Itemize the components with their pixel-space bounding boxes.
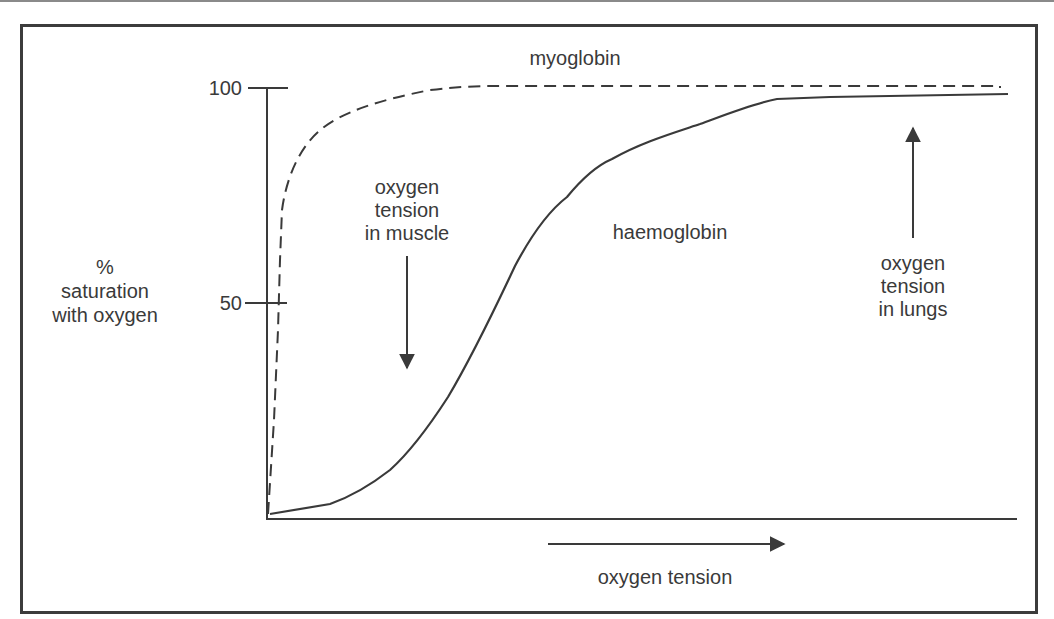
lungs-label-line-1: oxygen bbox=[853, 252, 973, 275]
myoglobin-label: myoglobin bbox=[515, 47, 635, 70]
y-tick-label-50: 50 bbox=[190, 292, 242, 314]
x-axis-label: oxygen tension bbox=[565, 566, 765, 589]
y-axis-label-line-1: % bbox=[45, 256, 165, 279]
lungs-label-line-3: in lungs bbox=[853, 298, 973, 321]
lungs-label-line-2: tension bbox=[853, 275, 973, 298]
muscle-label-line-2: tension bbox=[347, 199, 467, 222]
muscle-label-line-3: in muscle bbox=[347, 222, 467, 245]
muscle-label-line-1: oxygen bbox=[347, 176, 467, 199]
y-axis-label-line-3: with oxygen bbox=[35, 304, 175, 327]
haemoglobin-label: haemoglobin bbox=[595, 221, 745, 244]
y-axis-label-line-2: saturation bbox=[45, 280, 165, 303]
y-tick-label-100: 100 bbox=[190, 77, 242, 99]
